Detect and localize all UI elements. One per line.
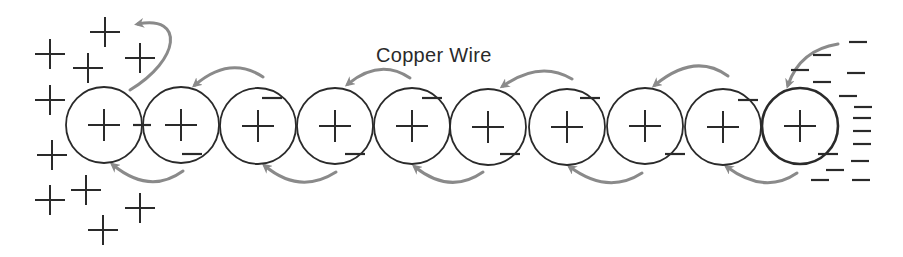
positive-charge-icon xyxy=(35,39,65,69)
positive-charge-icon xyxy=(71,175,101,205)
nucleus-plus-icon xyxy=(707,111,739,143)
negative-charge-cloud xyxy=(791,42,872,180)
flow-arrow-top-icon xyxy=(348,69,410,84)
positive-charge-icon xyxy=(125,193,155,223)
positive-charge-icon xyxy=(35,85,65,115)
positive-charge-icon xyxy=(37,140,67,170)
nucleus-plus-icon xyxy=(319,110,351,142)
flow-arrow-bottom-icon xyxy=(727,167,797,183)
nucleus-plus-icon xyxy=(88,109,120,141)
positive-charge-cloud xyxy=(35,17,155,245)
atom-1 xyxy=(66,87,142,163)
positive-charge-icon xyxy=(35,185,65,215)
flow-arrow-bottom-icon xyxy=(415,167,483,182)
nucleus-plus-icon xyxy=(784,110,816,142)
exit-arrow-icon xyxy=(130,23,171,90)
flow-arrow-top-icon xyxy=(195,68,263,85)
flow-arrow-top-icon xyxy=(503,71,572,86)
copper-atoms xyxy=(66,87,838,165)
atom-3 xyxy=(220,88,296,164)
flow-arrow-bottom-icon xyxy=(265,166,336,182)
flow-arrow-bottom-icon xyxy=(570,167,642,183)
nucleus-plus-icon xyxy=(165,109,197,141)
flow-arrow-top-icon xyxy=(788,44,838,85)
nucleus-plus-icon xyxy=(242,110,274,142)
atom-5 xyxy=(374,88,450,164)
copper-wire-diagram xyxy=(0,0,903,257)
nucleus-plus-icon xyxy=(551,111,583,143)
flow-arrow-bottom-icon xyxy=(113,165,183,182)
atom-8 xyxy=(607,88,685,164)
atom-10 xyxy=(762,88,838,164)
positive-charge-icon xyxy=(90,17,120,47)
nucleus-plus-icon xyxy=(629,110,661,142)
flow-arrow-top-icon xyxy=(655,66,728,85)
nucleus-plus-icon xyxy=(396,110,428,142)
atom-9 xyxy=(685,89,761,165)
atom-6 xyxy=(450,89,526,165)
atom-7 xyxy=(529,89,605,165)
atom-4 xyxy=(297,88,373,164)
positive-charge-icon xyxy=(125,43,155,73)
positive-charge-icon xyxy=(88,215,118,245)
positive-charge-icon xyxy=(73,53,103,83)
copper-wire-label: Copper Wire xyxy=(376,44,492,67)
atom-2 xyxy=(133,87,219,163)
nucleus-plus-icon xyxy=(472,111,504,143)
